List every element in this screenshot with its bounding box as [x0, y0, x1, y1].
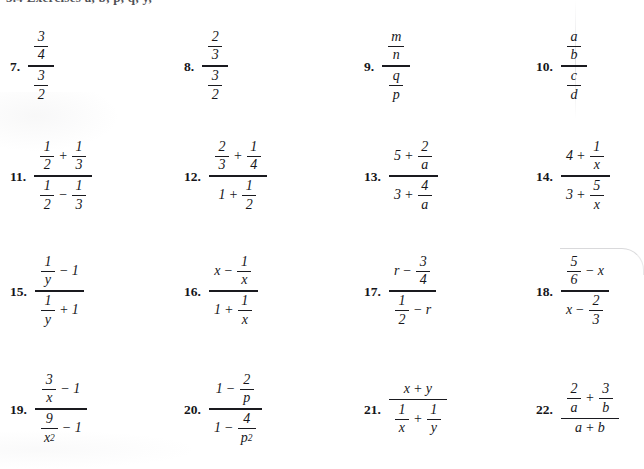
fraction-numerator: 1	[73, 179, 86, 194]
fraction-numerator: 3	[35, 30, 48, 45]
expression-line: 5 + 2 a	[394, 140, 433, 173]
exercise-number: 18.	[536, 283, 553, 300]
expression-line: 1 x + 1 y	[394, 403, 442, 436]
fraction-numerator: 1	[395, 294, 408, 309]
fraction-denominator: y	[42, 313, 54, 328]
fraction-numerator: 3	[599, 382, 612, 397]
numerator: 3 x − 1	[36, 373, 85, 406]
numerator: a b	[561, 30, 587, 63]
fraction-numerator: 1	[395, 403, 408, 418]
fraction: 1 y	[41, 294, 55, 327]
operator-minus: −	[221, 421, 237, 436]
expression-21: x + y 1 x +	[388, 382, 448, 436]
term-whole: r	[426, 303, 431, 318]
numerator: 5 6 − x	[561, 255, 609, 288]
fraction: 1 x	[237, 255, 251, 288]
fraction-denominator: 3	[590, 313, 603, 328]
fraction: 1 x	[395, 403, 409, 436]
fraction-denominator: b	[599, 401, 612, 416]
fraction-denominator: p	[240, 391, 253, 406]
operator-plus: +	[221, 303, 237, 318]
exercise-number: 8.	[184, 58, 194, 75]
operator-plus: +	[401, 149, 417, 164]
exercise-item-20: 20. 1 − 2 p	[184, 354, 364, 464]
fraction-numerator: 2	[590, 294, 603, 309]
numerator: m n	[382, 30, 410, 63]
term-whole: 1	[214, 421, 221, 436]
exercise-number: 11.	[10, 168, 26, 185]
fraction-denominator: 4	[247, 158, 260, 173]
fraction: 2 p	[240, 373, 254, 406]
term-whole: 1	[72, 303, 79, 318]
expression-line: 1 2 + 1 3	[39, 140, 87, 173]
exercise-item-7: 7. 3 4 3 2	[10, 11, 184, 121]
operator-plus: +	[582, 421, 598, 436]
fraction-numerator: 1	[247, 140, 260, 155]
numerator: x + y	[399, 382, 437, 397]
operator-minus: −	[220, 264, 236, 279]
fraction: 3 4	[416, 255, 430, 288]
operator-plus: +	[582, 391, 598, 406]
fraction-denominator: 2	[35, 88, 48, 103]
expression-line: 3 x − 1	[41, 373, 80, 406]
main-fraction-bar	[389, 175, 438, 176]
numerator: 4 + 1 x	[561, 140, 610, 173]
expression-20: 1 − 2 p 1 −	[208, 373, 263, 446]
expression-line: 1 − 2 p	[216, 373, 255, 406]
operator-minus: −	[57, 382, 73, 397]
main-fraction-bar	[35, 408, 87, 409]
exercise-item-14: 14. 4 + 1 x	[536, 121, 643, 231]
denominator: a + b	[570, 421, 610, 436]
fraction-bar	[567, 398, 581, 399]
exercise-number: 22.	[536, 401, 553, 418]
exercise-item-21: 21. x + y 1	[364, 354, 536, 464]
exercise-number: 7.	[10, 58, 20, 75]
expression-line: 1 y − 1	[40, 255, 79, 288]
numerator: 1 y − 1	[35, 255, 84, 288]
term-whole: 1	[73, 382, 80, 397]
fraction: 3 b	[599, 382, 613, 415]
fraction: 1 x	[238, 294, 252, 327]
fraction-denominator: a	[418, 198, 431, 213]
fraction: 3 2	[208, 69, 222, 102]
fraction: 1 x	[590, 140, 604, 173]
fraction-denominator: d	[567, 88, 580, 103]
numerator: x − 1 x	[209, 255, 257, 288]
exercise-row: 15. 1 y − 1	[0, 236, 643, 346]
complex-fraction: 3 x − 1 9	[35, 373, 87, 446]
exercise-row: 7. 3 4 3 2	[0, 11, 643, 121]
expression-line: x + y	[404, 382, 432, 397]
exercise-item-16: 16. x − 1 x	[184, 236, 364, 346]
expression-14: 4 + 1 x 3 +	[560, 140, 611, 213]
main-fraction-bar	[561, 290, 609, 291]
expression-line: 1 + 1 2	[218, 179, 257, 212]
fraction: 3 x	[42, 373, 56, 406]
base-variable: p	[241, 431, 248, 446]
fraction: 1 y	[427, 403, 441, 436]
exercise-item-8: 8. 2 3 3 2	[184, 11, 364, 121]
fraction-numerator: 2	[418, 140, 431, 155]
fraction: q p	[389, 69, 403, 102]
expression-12: 2 3 + 1 4	[208, 140, 268, 213]
running-header: 5.4 Exercises a, b, p, q, y,	[0, 0, 643, 9]
main-fraction-bar	[389, 290, 436, 291]
fraction: 1 3	[72, 179, 86, 212]
fraction: 3 4	[34, 30, 48, 63]
fraction-numerator: 1	[243, 179, 256, 194]
expression-line: 1 2 − r	[394, 294, 431, 327]
exercise-number: 15.	[10, 283, 27, 300]
running-header-text: 5.4 Exercises a, b, p, q, y,	[6, 0, 152, 6]
numerator: 1 − 2 p	[211, 373, 260, 406]
fraction-denominator: a	[418, 158, 431, 173]
main-fraction-bar	[561, 418, 619, 419]
term-whole: 1	[75, 421, 82, 436]
complex-fraction: x − 1 x 1 +	[209, 255, 258, 328]
complex-fraction: 2 a + 3 b	[561, 382, 619, 436]
fraction: 1 3	[72, 140, 86, 173]
expression-line: a + b	[575, 421, 605, 436]
exercise-number: 13.	[364, 168, 381, 185]
exercise-item-9: 9. m n q p	[364, 11, 536, 121]
exercise-item-13: 13. 5 + 2 a	[364, 121, 536, 231]
fraction: 2 3	[589, 294, 603, 327]
fraction-denominator: 4	[35, 48, 48, 63]
